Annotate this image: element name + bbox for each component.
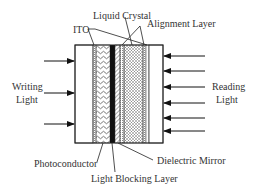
label-ito: ITO bbox=[73, 24, 89, 35]
glass-right bbox=[149, 45, 163, 143]
photoconductor-layer bbox=[96, 45, 110, 143]
glass-left bbox=[75, 45, 93, 143]
liquid-crystal-layer bbox=[124, 45, 143, 143]
label-photoconductor: Photoconductor bbox=[34, 158, 97, 169]
alignment-layer-left bbox=[120, 45, 124, 143]
light-blocking-layer bbox=[110, 45, 115, 143]
writing-light-arrows bbox=[44, 61, 74, 124]
photoconductor-leader-line bbox=[97, 143, 103, 162]
label-light-blocking-layer: Light Blocking Layer bbox=[91, 173, 178, 184]
dielectric-mirror-layer bbox=[115, 45, 120, 143]
dielectric-mirror-leader-line bbox=[118, 143, 153, 160]
label-dielectric-mirror: Dielectric Mirror bbox=[157, 155, 226, 166]
alignment-leader-line bbox=[140, 26, 144, 45]
alignment-layer-right bbox=[143, 45, 146, 143]
light-blocking-leader-line bbox=[112, 143, 115, 172]
ito-right bbox=[146, 45, 149, 143]
ito-leader-line bbox=[95, 29, 147, 45]
label-reading-light-2: Light bbox=[216, 94, 238, 105]
ito-left bbox=[93, 45, 96, 143]
label-reading-light-1: Reading bbox=[212, 81, 245, 92]
label-writing-light-2: Light bbox=[16, 94, 38, 105]
label-writing-light-1: Writing bbox=[12, 81, 43, 92]
label-liquid-crystal: Liquid Crystal bbox=[93, 10, 151, 21]
label-alignment-layer: Alignment Layer bbox=[147, 18, 216, 29]
reading-light-arrows bbox=[164, 56, 205, 131]
cell-structure bbox=[75, 45, 163, 143]
